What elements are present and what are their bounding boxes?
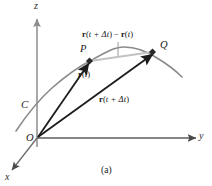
vector-arg-first: t + Δt bbox=[89, 29, 109, 39]
y-axis-label: y bbox=[199, 131, 203, 141]
paren-close: ) bbox=[126, 94, 129, 104]
figure-caption: (a) bbox=[101, 166, 112, 176]
vector-label-difference: r(t + Δt)−r(t) bbox=[82, 30, 133, 39]
vector-r-t-plus-dt-arrow bbox=[38, 54, 153, 137]
point-p-label: P bbox=[80, 44, 86, 55]
vector-label-r-t-plus-dt: r(t + Δt) bbox=[99, 95, 129, 104]
paren-close: ) bbox=[87, 69, 90, 79]
paren-close-second: ) bbox=[130, 29, 133, 39]
curve-label-c: C bbox=[21, 99, 28, 110]
origin-label: O bbox=[26, 133, 34, 144]
vector-label-r-t: r(t) bbox=[78, 70, 90, 79]
z-axis-label: z bbox=[34, 1, 38, 11]
point-p-marker bbox=[86, 57, 93, 64]
point-q-label: Q bbox=[160, 40, 168, 51]
vector-arg: t + Δt bbox=[106, 94, 126, 104]
figure-canvas bbox=[0, 0, 212, 186]
minus-operator: − bbox=[114, 29, 119, 39]
paren-close-first: ) bbox=[109, 29, 112, 39]
vector-calculus-figure: z y x P Q O C r(t) r(t + Δt) r(t + Δt)−r… bbox=[0, 0, 212, 186]
x-axis-label: x bbox=[5, 172, 9, 182]
